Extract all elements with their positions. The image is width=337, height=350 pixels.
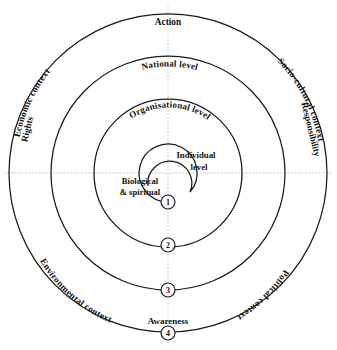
marker-1-label: 1	[166, 198, 170, 207]
label-political-context: Political context	[235, 268, 291, 323]
label-awareness: Awareness	[148, 316, 189, 326]
diagram-canvas: Economic context Socio-cultural context …	[0, 0, 337, 350]
label-national-level: National level	[141, 58, 200, 72]
marker-2-label: 2	[166, 241, 170, 250]
marker-4: 4	[161, 326, 175, 340]
label-organisational-level: Organisational level	[127, 100, 212, 122]
label-political-context-text: Political context	[235, 268, 291, 323]
label-individual-level-line2: level	[190, 162, 208, 172]
label-socio-cultural-context-text: Socio-cultural context	[276, 56, 326, 143]
marker-3-label: 3	[166, 286, 170, 295]
marker-1: 1	[161, 195, 175, 209]
label-action: Action	[155, 17, 182, 27]
label-socio-cultural-context: Socio-cultural context	[276, 56, 326, 143]
label-organisational-level-text: Organisational level	[127, 100, 212, 122]
label-biological-line2: & spiritual	[120, 187, 161, 197]
marker-3: 3	[161, 283, 175, 297]
label-national-level-text: National level	[141, 58, 200, 72]
marker-2: 2	[161, 238, 175, 252]
label-environmental-context: Environmental context	[38, 257, 114, 325]
concentric-levels-diagram: Economic context Socio-cultural context …	[0, 0, 337, 350]
label-biological-line1: Biological	[122, 176, 159, 186]
label-environmental-context-text: Environmental context	[38, 257, 114, 325]
label-individual-level-line1: Individual	[176, 150, 216, 160]
marker-4-label: 4	[166, 329, 170, 338]
